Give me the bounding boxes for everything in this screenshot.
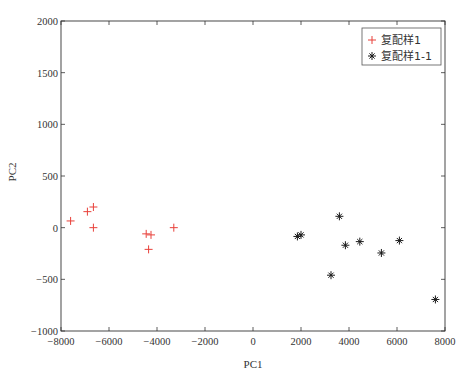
axis-ticks: −8000−6000−4000−200002000400060008000−10… [31,16,455,347]
y-tick-label: 2000 [37,16,58,27]
y-tick-label: −500 [36,274,58,285]
y-tick-label: 500 [42,171,58,182]
y-axis-label: PC2 [6,163,18,182]
data-points [67,203,440,303]
x-tick-label: 0 [250,336,255,347]
legend: 复配样1 复配样1-1 [362,28,441,65]
y-tick-label: 1000 [37,119,58,130]
x-axis-label: PC1 [244,358,263,370]
series-points [293,212,439,303]
x-tick-label: −6000 [96,336,123,347]
x-tick-label: 4000 [339,336,360,347]
scatter-chart: −8000−6000−4000−200002000400060008000−10… [0,0,460,375]
x-tick-label: −2000 [192,336,219,347]
axes-box [61,21,445,331]
x-tick-label: 6000 [387,336,408,347]
x-tick-label: −4000 [144,336,171,347]
y-tick-label: 0 [53,223,58,234]
x-tick-label: 8000 [435,336,456,347]
legend-label: 复配样1 [381,33,421,47]
series-points [67,203,178,253]
x-tick-label: −8000 [48,336,75,347]
plot-frame [61,21,445,331]
legend-label: 复配样1-1 [381,49,432,63]
y-tick-label: 1500 [37,68,58,79]
y-tick-label: −1000 [31,326,58,337]
x-tick-label: 2000 [291,336,312,347]
